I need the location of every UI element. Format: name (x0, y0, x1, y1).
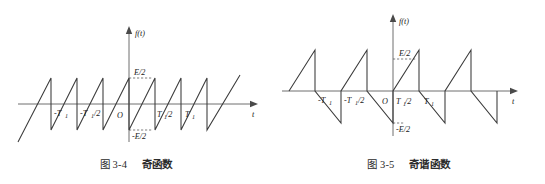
x-axis-label: t (252, 110, 255, 119)
y-axis-label: f(t) (399, 17, 409, 26)
x-axis-arrow-icon (250, 101, 258, 107)
x-tick-label-minus-T1-half: -T 1 /2 (80, 109, 100, 119)
odd-harmonic-plot: E/2 -E/2 f(t) t -T 1 -T 1 /2 O T 1 /2 T (272, 0, 545, 152)
x-tick-label-T1: T 1 (424, 97, 434, 107)
negative-amplitude-label: -E/2 (132, 132, 146, 141)
x-tick-label-T1-half: T 1 /2 (396, 97, 411, 107)
svg-text:T: T (157, 110, 163, 119)
y-axis-arrow-icon (390, 14, 396, 22)
x-axis-label: t (512, 97, 515, 106)
figure-caption: 图 3-4 奇函数 (0, 156, 272, 171)
origin-label: O (382, 97, 388, 106)
y-axis-label: f(t) (135, 29, 145, 38)
x-axis-arrow-icon (510, 88, 518, 94)
svg-text:1: 1 (329, 100, 332, 106)
svg-text:1: 1 (431, 101, 434, 107)
svg-text:1: 1 (192, 114, 195, 120)
svg-text:/2: /2 (165, 110, 172, 119)
x-tick-label-minus-T1: -T 1 (318, 96, 332, 106)
svg-text:1: 1 (65, 113, 68, 119)
caption-number: 图 3-5 (367, 159, 395, 170)
odd-function-plot: E/2 -E/2 f(t) t -T 1 -T 1 /2 O T 1 /2 (0, 0, 272, 152)
x-tick-label-minus-T1-half: -T 1 /2 (344, 96, 364, 106)
caption-number: 图 3-4 (100, 159, 128, 170)
x-tick-label-minus-T1: -T 1 (54, 109, 68, 119)
svg-text:/2: /2 (93, 109, 100, 118)
svg-text:-T: -T (344, 96, 353, 105)
svg-text:/2: /2 (404, 97, 411, 106)
svg-text:T: T (396, 97, 402, 106)
caption-title: 奇函数 (142, 159, 173, 170)
origin-label: O (117, 111, 123, 120)
caption-title: 奇谐函数 (409, 159, 450, 170)
svg-text:T: T (424, 97, 430, 106)
svg-text:-T: -T (54, 109, 63, 118)
negative-amplitude-label: -E/2 (396, 125, 410, 134)
positive-amplitude-label: E/2 (398, 49, 410, 58)
figure-odd-harmonic-function: E/2 -E/2 f(t) t -T 1 -T 1 /2 O T 1 /2 T (272, 0, 545, 184)
svg-text:/2: /2 (357, 96, 364, 105)
figure-odd-function: E/2 -E/2 f(t) t -T 1 -T 1 /2 O T 1 /2 (0, 0, 272, 184)
y-axis-arrow-icon (126, 26, 132, 34)
figure-caption: 图 3-5 奇谐函数 (272, 156, 545, 171)
figure-pair-container: E/2 -E/2 f(t) t -T 1 -T 1 /2 O T 1 /2 (0, 0, 545, 184)
positive-amplitude-label: E/2 (133, 68, 145, 77)
svg-text:-T: -T (80, 109, 89, 118)
